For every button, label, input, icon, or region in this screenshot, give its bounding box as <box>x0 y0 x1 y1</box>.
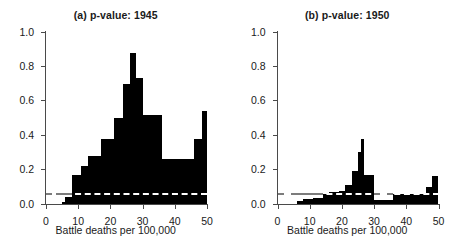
panel-a-title: (a) p-value: 1945 <box>0 9 232 21</box>
panel-a-y-tick-label-4: 0.8 <box>19 60 34 72</box>
panel-b-y-tick-3: 0.6 <box>273 100 277 101</box>
panel-b-x-tick-2: 20 <box>342 205 343 209</box>
panel-b-plot-area: 0.00.20.40.60.81.0 01020304050 <box>278 32 439 204</box>
panel-b-y-tick-0: 0.0 <box>273 204 277 205</box>
table-row <box>202 111 207 204</box>
panel-b-y-tick-5: 1.0 <box>273 32 277 33</box>
panel-a-y-tick-label-5: 1.0 <box>19 26 34 38</box>
panel-b-y-tick-label-0: 0.0 <box>251 198 266 210</box>
panel-b-x-axis <box>277 204 440 205</box>
panel-b-y-tick-label-3: 0.6 <box>251 94 266 106</box>
panel-a-x-tick-5: 50 <box>207 205 208 209</box>
panel-a-plot-area: 0.00.20.40.60.81.0 01020304050 <box>46 32 207 204</box>
panel-a-y-tick-2: 0.4 <box>41 135 45 136</box>
panel-a-significance-threshold-seg <box>65 193 71 195</box>
table-row <box>432 176 438 204</box>
panel-b-title: (b) p-value: 1950 <box>232 9 463 21</box>
panel-a-x-tick-1: 10 <box>78 205 79 209</box>
table-row <box>72 175 82 204</box>
panel-a-x-axis-label: Battle deaths per 100,000 <box>0 224 232 236</box>
panel-b-significance-threshold-seg <box>374 193 393 195</box>
table-row <box>374 200 393 204</box>
table-row <box>88 156 101 204</box>
panel-a-y-tick-3: 0.6 <box>41 100 45 101</box>
panel-a-x-tick-3: 30 <box>143 205 144 209</box>
table-row <box>313 198 323 204</box>
table-row <box>114 118 124 204</box>
panel-a-y-tick-label-2: 0.4 <box>19 129 34 141</box>
panel-b-significance-threshold-seg <box>303 193 313 195</box>
panel-b-y-tick-2: 0.4 <box>273 135 277 136</box>
panel-a-y-tick-1: 0.2 <box>41 169 45 170</box>
panel-b-significance-threshold-seg <box>313 193 323 195</box>
figure-two-panel-histograms: (a) p-value: 1945 0.00.20.40.60.81.0 010… <box>0 0 463 246</box>
panel-b-x-axis-label: Battle deaths per 100,000 <box>232 224 463 236</box>
table-row <box>303 199 313 204</box>
panel-a-y-tick-4: 0.8 <box>41 66 45 67</box>
table-row <box>143 115 162 204</box>
panel-b-x-tick-4: 40 <box>406 205 407 209</box>
panel-a-x-axis <box>45 204 208 205</box>
panel-a-x-tick-4: 40 <box>175 205 176 209</box>
panel-b-x-tick-0: 0 <box>278 205 279 209</box>
panel-a-significance-threshold-seg <box>46 193 62 195</box>
panel-b-y-tick-label-1: 0.2 <box>251 163 266 175</box>
panel-b-y-tick-1: 0.2 <box>273 169 277 170</box>
panel-b-y-tick-label-4: 0.8 <box>251 60 266 72</box>
panel-a-y-tick-label-1: 0.2 <box>19 163 34 175</box>
panel-a: (a) p-value: 1945 0.00.20.40.60.81.0 010… <box>0 0 232 246</box>
table-row <box>162 159 194 204</box>
panel-b-x-tick-5: 50 <box>439 205 440 209</box>
panel-b-y-tick-4: 0.8 <box>273 66 277 67</box>
panel-b-x-tick-3: 30 <box>374 205 375 209</box>
panel-b-y-tick-label-2: 0.4 <box>251 129 266 141</box>
panel-b-bars <box>278 32 439 204</box>
panel-b-y-tick-label-5: 1.0 <box>251 26 266 38</box>
panel-a-x-tick-2: 20 <box>110 205 111 209</box>
panel-a-bars <box>46 32 207 204</box>
panel-b: (b) p-value: 1950 0.00.20.40.60.81.0 010… <box>232 0 463 246</box>
panel-b-x-tick-1: 10 <box>310 205 311 209</box>
panel-a-y-tick-0: 0.0 <box>41 204 45 205</box>
panel-a-y-tick-label-3: 0.6 <box>19 94 34 106</box>
panel-a-y-tick-5: 1.0 <box>41 32 45 33</box>
panel-a-y-tick-label-0: 0.0 <box>19 198 34 210</box>
panel-a-x-tick-0: 0 <box>46 205 47 209</box>
panel-b-significance-threshold-seg <box>278 193 297 195</box>
